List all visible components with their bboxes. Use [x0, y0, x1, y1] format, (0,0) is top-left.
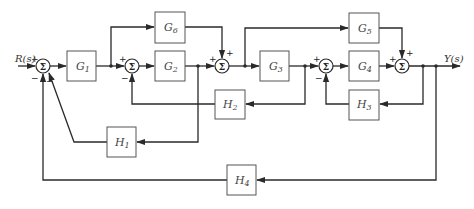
svg-text:−: − — [31, 73, 39, 83]
svg-text:+: + — [226, 48, 234, 58]
junction-dot — [109, 64, 113, 68]
block-h2: H2 — [215, 90, 245, 119]
block-g2: G2 — [155, 51, 185, 81]
svg-text:+: + — [313, 54, 321, 64]
svg-text:−: − — [46, 76, 54, 86]
junction-dot — [243, 64, 247, 68]
block-g6: G6 — [155, 12, 185, 43]
feedback-h4-path — [43, 66, 436, 180]
svg-text:Σ: Σ — [399, 62, 405, 72]
svg-text:Σ: Σ — [129, 62, 135, 72]
summing-junction-4: Σ — [319, 59, 333, 73]
svg-text:−: − — [121, 73, 129, 83]
block-h4: H4 — [227, 165, 256, 195]
svg-text:+: + — [406, 48, 414, 58]
summing-junction-5: Σ — [395, 59, 409, 73]
block-g5: G5 — [349, 13, 379, 43]
svg-text:Σ: Σ — [40, 62, 46, 72]
svg-text:Σ: Σ — [219, 62, 225, 72]
input-label: R(s) — [14, 53, 36, 64]
svg-text:+: + — [389, 54, 397, 64]
summing-junction-3: Σ — [215, 59, 229, 73]
svg-text:+: + — [119, 54, 127, 64]
block-h3: H3 — [349, 90, 379, 120]
junction-dot — [434, 64, 438, 68]
block-g3: G3 — [260, 51, 289, 81]
junction-dot — [303, 64, 307, 68]
svg-text:−: − — [315, 73, 323, 83]
junction-dot — [196, 64, 200, 68]
svg-text:+: + — [209, 54, 217, 64]
block-h1: H1 — [107, 127, 136, 157]
svg-text:Σ: Σ — [323, 62, 329, 72]
junction-dot — [421, 64, 425, 68]
output-label: Y(s) — [444, 53, 464, 64]
block-g4: G4 — [349, 51, 379, 81]
block-g1: G1 — [67, 51, 96, 81]
block-diagram: G1 G2 G6 G3 G4 G5 H2 H3 H1 H4 Σ — [0, 0, 474, 209]
summing-junction-2: Σ — [125, 59, 139, 73]
